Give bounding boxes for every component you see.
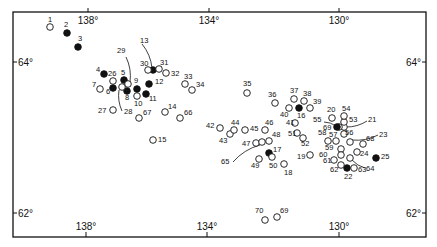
station-marker: 37 [290,86,298,102]
station-label: 56 [345,128,353,137]
station-marker: 68 [360,134,375,147]
open-circle-icon [347,155,354,162]
open-circle-icon [125,81,132,88]
station-label: 14 [168,102,176,111]
filled-circle-icon [101,71,108,78]
longitude-label-bottom: 134° [197,221,218,232]
station-label: 10 [134,99,142,108]
station-marker: 15 [150,135,167,144]
station-label: 37 [290,86,298,95]
station-label: 45 [250,124,258,133]
station-label: 2 [64,20,68,29]
longitude-label-top: 130° [329,15,350,26]
open-circle-icon [47,24,54,31]
open-circle-icon [163,70,170,77]
station-marker: 70 [255,206,268,223]
station-marker: 20 [327,105,335,121]
latitude-label-right: 62° [406,208,421,219]
station-marker: 43 [219,131,233,145]
open-circle-icon [136,115,143,122]
open-circle-icon [244,90,251,97]
station-marker: 1 [47,15,54,30]
station-label: 23 [379,130,387,139]
open-circle-icon [281,161,288,168]
station-label: 36 [268,90,276,99]
filled-circle-icon [344,165,351,172]
station-marker: 10 [134,93,143,108]
station-marker: 52 [300,135,310,148]
longitude-label-bottom: 130° [329,221,350,232]
open-circle-icon [177,115,184,122]
open-circle-icon [338,152,345,159]
station-label: 17 [273,145,281,154]
station-marker: 14 [162,102,177,115]
station-marker: 9 [134,76,141,92]
latitude-label-left: 64° [18,57,33,68]
open-circle-icon [331,157,338,164]
open-circle-icon [262,217,269,224]
station-label: 69 [323,123,331,132]
station-marker: 33 [182,72,193,87]
station-marker: 18 [281,161,293,177]
open-circle-icon [307,152,314,159]
open-circle-icon [351,165,358,172]
filled-circle-icon [75,44,82,51]
station-label: 26 [108,69,116,78]
station-label: 54 [342,104,350,113]
station-marker: 39 [307,97,322,111]
station-label: 34 [196,80,204,89]
station-label: 3 [78,34,82,43]
open-circle-icon [291,96,298,103]
station-label: 20 [327,105,335,114]
latitude-label-left: 62° [18,208,33,219]
station-label: 15 [158,135,166,144]
open-circle-icon [259,139,266,146]
station-marker: 30 [140,59,151,73]
open-circle-icon [338,162,345,169]
station-marker: 61 [323,156,337,165]
open-circle-icon [182,81,189,88]
open-circle-icon [242,127,249,134]
station-label: 25 [381,152,389,161]
station-marker: 35 [243,79,251,96]
station-marker: 32 [163,69,180,78]
station-marker: 40 [280,105,292,119]
station-label: 32 [171,69,179,78]
open-circle-icon [253,140,260,147]
filled-circle-icon [373,155,380,162]
station-label: 41 [286,118,294,127]
station-marker: 47 [242,139,259,148]
station-marker: 16 [296,105,306,120]
station-label: 8 [125,93,129,102]
station-label: 12 [155,77,163,86]
latitude-label-right: 64° [406,57,421,68]
station-label: 62 [330,165,338,174]
station-marker: 62 [330,162,344,174]
station-label: 29 [117,46,125,55]
station-label: 16 [297,111,305,120]
longitude-label-top: 138° [78,15,99,26]
station-marker: 19 [297,152,313,161]
station-label: 53 [349,115,357,124]
open-circle-icon [110,107,117,114]
station-marker: 26 [108,69,116,84]
station-label: 11 [149,94,157,103]
station-label: 47 [242,139,250,148]
station-marker: 4 [96,65,107,77]
station-marker: 24 [354,149,369,158]
open-circle-icon [119,84,126,91]
station-label: 5 [121,68,125,77]
filled-circle-icon [334,124,341,131]
station-label: 44 [231,118,239,127]
filled-circle-icon [110,85,117,92]
station-label: 21 [368,115,376,124]
station-label: 49 [251,161,259,170]
filled-circle-icon [64,30,71,37]
station-marker: 50 [269,154,278,170]
station-label: 38 [303,89,311,98]
station-label: 28 [124,107,132,116]
station-marker: 8 [124,88,131,102]
station-label: 65 [221,157,229,166]
station-label: 18 [284,168,292,177]
station-location-map: 138°134°130°138°134°130°64°62°64°62° 123… [0,0,437,247]
